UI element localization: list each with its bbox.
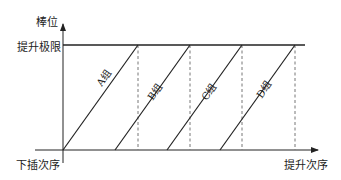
origin-label: 下插次序 [16, 156, 60, 172]
lift-limit-label: 提升极限 [17, 38, 61, 54]
y-axis-label: 棒位 [36, 13, 58, 29]
x-axis-label: 提升次序 [284, 156, 328, 172]
